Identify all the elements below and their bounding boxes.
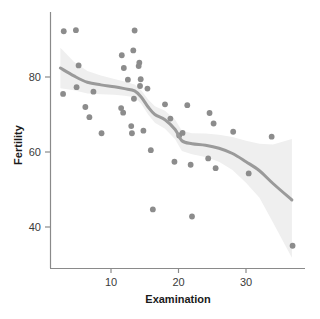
- data-point: [130, 47, 136, 53]
- data-point: [188, 162, 194, 168]
- y-axis-tick-label: 40: [29, 221, 41, 233]
- data-point: [82, 104, 88, 110]
- data-point: [211, 121, 217, 127]
- y-axis-tick-label: 80: [29, 71, 41, 83]
- data-point: [145, 86, 151, 92]
- x-axis-tick-label: 20: [172, 276, 184, 288]
- data-point: [172, 159, 178, 165]
- data-point: [74, 84, 80, 90]
- data-point: [230, 129, 236, 135]
- data-point: [189, 214, 195, 220]
- data-point: [125, 77, 131, 83]
- data-point: [61, 28, 67, 34]
- x-axis-tick-label: 30: [240, 276, 252, 288]
- data-point: [73, 27, 79, 33]
- data-point: [162, 101, 168, 107]
- data-point: [207, 110, 213, 116]
- data-point: [148, 147, 154, 153]
- data-point: [60, 91, 66, 97]
- data-point: [213, 165, 219, 171]
- data-point: [132, 28, 138, 34]
- data-point: [138, 76, 144, 82]
- data-point: [205, 155, 211, 161]
- x-axis-tick-label: 10: [105, 276, 117, 288]
- data-point: [99, 130, 105, 136]
- data-point: [137, 83, 143, 89]
- x-axis-title: Examination: [145, 293, 211, 305]
- y-axis-title: Fertility: [12, 124, 24, 165]
- data-point: [180, 130, 186, 136]
- scatter-plot: 406080 102030 Examination Fertility: [0, 0, 320, 319]
- data-point: [129, 130, 135, 136]
- data-point: [246, 170, 252, 176]
- data-point: [120, 110, 126, 116]
- data-point: [131, 96, 137, 102]
- data-point: [76, 62, 82, 68]
- data-point: [87, 114, 93, 120]
- y-axis-tick-label: 60: [29, 146, 41, 158]
- data-point: [91, 89, 97, 95]
- chart-container: 406080 102030 Examination Fertility: [0, 0, 320, 319]
- data-point: [290, 243, 296, 249]
- data-point: [269, 134, 275, 140]
- data-point: [141, 128, 147, 134]
- data-point: [128, 123, 134, 129]
- data-point: [121, 65, 127, 71]
- data-point: [119, 52, 125, 58]
- data-point: [150, 206, 156, 212]
- data-point: [184, 102, 190, 108]
- data-point: [136, 63, 142, 69]
